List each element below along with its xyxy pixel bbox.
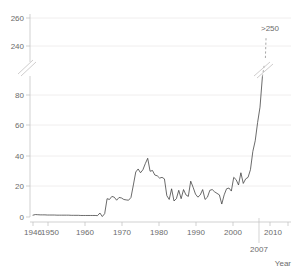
x-tick-labels: 1946 1950 1960 1970 1980 1990 2000 2010: [24, 228, 282, 237]
y-tick-label-60: 60: [15, 121, 24, 130]
line-chart-svg: 260 240 80 60 40 20 0 1946 1950 1: [0, 0, 298, 271]
x-axis-title: Year: [275, 259, 292, 268]
x-tick-label-1970: 1970: [113, 228, 131, 237]
y-tick-label-80: 80: [15, 91, 24, 100]
gridlines-upper: [30, 18, 291, 46]
x-tick-label-2010: 2010: [264, 228, 282, 237]
y-tick-labels: 260 240 80 60 40 20 0: [11, 14, 25, 222]
gridlines-lower: [30, 95, 291, 186]
y-axis-break-icon: [18, 60, 36, 76]
projection-value-label: >250: [261, 24, 280, 33]
y-tick-label-20: 20: [15, 182, 24, 191]
y-tick-label-0: 0: [20, 213, 25, 222]
x-tick-label-1946: 1946: [24, 228, 42, 237]
year-2007-highlight-label: 2007: [250, 245, 268, 254]
x-axis: [30, 222, 291, 226]
y-tick-label-260: 260: [11, 14, 25, 23]
x-tick-label-1960: 1960: [76, 228, 94, 237]
y-tick-label-240: 240: [11, 42, 25, 51]
x-tick-label-2000: 2000: [224, 228, 242, 237]
data-line-break-icon: [254, 62, 273, 78]
chart-container: 260 240 80 60 40 20 0 1946 1950 1: [0, 0, 298, 271]
y-axis: [26, 14, 30, 217]
x-tick-label-1980: 1980: [150, 228, 168, 237]
y-tick-label-40: 40: [15, 152, 24, 161]
x-tick-label-1990: 1990: [187, 228, 205, 237]
x-tick-label-1950: 1950: [41, 228, 59, 237]
data-series-line: [33, 77, 262, 217]
